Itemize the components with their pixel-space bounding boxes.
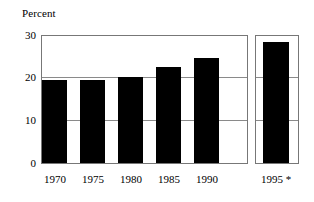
plot-area-projected (255, 35, 299, 164)
bar-1985 (156, 67, 181, 163)
bar-1970 (42, 80, 67, 163)
x-tick-label-1985: 1985 (149, 173, 189, 185)
bar-1995 (263, 42, 289, 163)
x-tick-label-1995: 1995 * (252, 173, 300, 185)
x-tick-label-1990: 1990 (187, 173, 227, 185)
y-tick-label-10: 10 (14, 115, 36, 126)
x-tick-label-1975: 1975 (73, 173, 113, 185)
bar-chart: Percent 30 20 10 0 1970 1975 1980 1985 1… (0, 0, 314, 202)
bars-layer-projected (256, 36, 298, 163)
y-tick-label-20: 20 (14, 72, 36, 83)
x-tick-label-1970: 1970 (35, 173, 75, 185)
y-tick-label-30: 30 (14, 30, 36, 41)
bars-layer-historical (42, 36, 247, 163)
bar-1975 (80, 80, 105, 163)
x-tick-label-1980: 1980 (111, 173, 151, 185)
y-tick-label-0: 0 (14, 158, 36, 169)
bar-1980 (118, 77, 143, 163)
bar-1990 (194, 58, 219, 163)
y-axis-title: Percent (22, 7, 56, 20)
plot-area-historical (41, 35, 248, 164)
